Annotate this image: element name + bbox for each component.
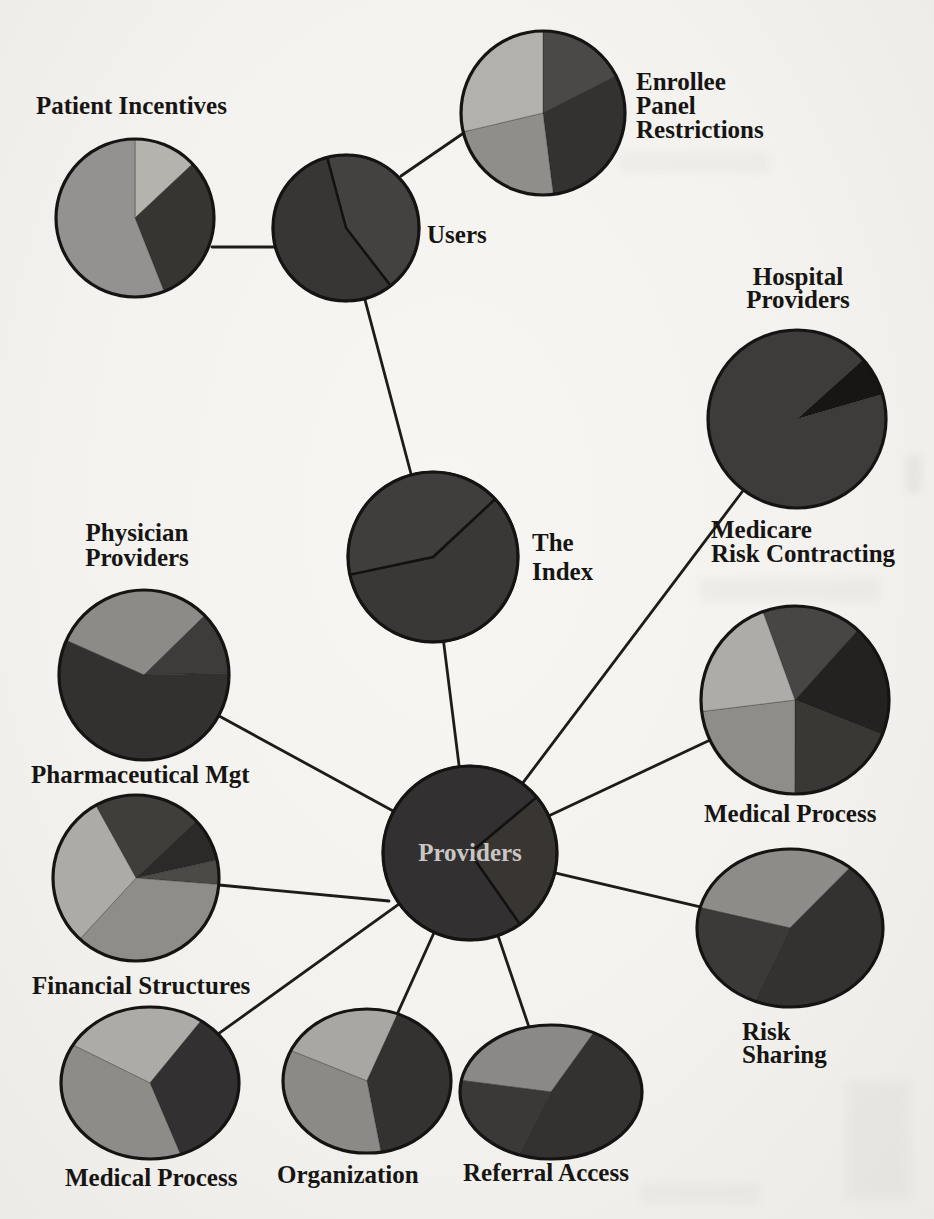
- label-the-index-hub: The Index: [532, 528, 593, 586]
- pie-users: [273, 155, 419, 301]
- edge-users--enrollee-panel-restrictions: [401, 130, 468, 176]
- pie-enrollee-panel-restrictions: [461, 31, 625, 195]
- scan-ghost-artifact: [620, 152, 770, 172]
- pie-risk-sharing: [697, 849, 883, 1007]
- label-medical-process-right: Medical Process: [704, 801, 876, 827]
- label-hospital-providers-heading: Hospital Providers: [737, 265, 859, 311]
- scan-ghost-artifact: [845, 1080, 911, 1200]
- pie-medical-process-left: [61, 1007, 239, 1159]
- label-medical-process-left: Medical Process: [65, 1165, 237, 1191]
- pie-referral-access: [460, 1025, 642, 1159]
- pie-pharmaceutical-mgt: [59, 590, 229, 760]
- edge-providers--risk-sharing: [553, 872, 703, 907]
- scan-ghost-artifact: [700, 578, 880, 602]
- label-physician-providers-heading: Physician Providers: [56, 520, 218, 570]
- label-pharmaceutical-mgt: Pharmaceutical Mgt: [31, 762, 250, 788]
- pie-organization: [283, 1009, 451, 1153]
- label-medicare-risk-contracting: Medicare Risk Contracting: [711, 518, 895, 566]
- edge-providers--financial-structures: [219, 885, 389, 901]
- pie-patient-incentives: [56, 139, 214, 297]
- scan-ghost-artifact: [906, 455, 922, 493]
- scanned-figure-page: Patient Incentives Enrollee Panel Restri…: [0, 0, 934, 1219]
- edge-the-index--providers: [443, 639, 459, 768]
- label-organization: Organization: [277, 1162, 419, 1188]
- label-patient-incentives: Patient Incentives: [36, 93, 227, 119]
- label-enrollee-panel-restrictions: Enrollee Panel Restrictions: [636, 70, 764, 142]
- pie-the-index: [348, 472, 518, 642]
- label-financial-structures: Financial Structures: [32, 973, 250, 999]
- pie-medical-process-right: [701, 606, 889, 794]
- edge-providers--referral-access: [497, 934, 529, 1029]
- label-providers-hub: Providers: [418, 840, 522, 866]
- pie-medicare-risk-contracting: [708, 330, 886, 508]
- pie-financial-structures: [53, 795, 219, 961]
- edge-providers--medical-process-right: [547, 739, 712, 817]
- label-users-hub: Users: [427, 222, 487, 248]
- label-referral-access: Referral Access: [463, 1160, 629, 1186]
- label-risk-sharing: Risk Sharing: [742, 1020, 827, 1066]
- scan-ghost-artifact: [640, 1182, 760, 1204]
- edge-users--the-index: [364, 297, 412, 477]
- edge-providers--organization: [397, 930, 435, 1015]
